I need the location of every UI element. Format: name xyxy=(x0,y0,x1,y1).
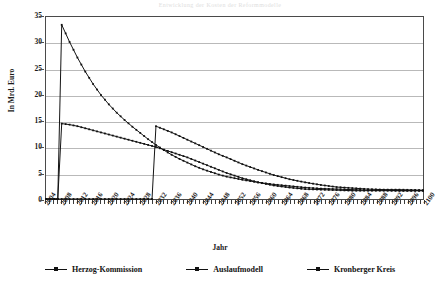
data-point xyxy=(159,147,161,149)
data-point xyxy=(257,181,259,183)
data-point xyxy=(344,187,346,189)
chart-container: Entwicklung der Kosten der Reformmodelle… xyxy=(0,0,440,285)
data-point xyxy=(147,144,149,146)
series-layer xyxy=(46,17,423,199)
y-tick-label: 35 xyxy=(2,12,42,20)
y-tick-label: 30 xyxy=(2,38,42,46)
legend-item-3[interactable]: Kronberger Kreis xyxy=(307,265,395,274)
data-point xyxy=(293,185,295,187)
data-point xyxy=(324,185,326,187)
data-point xyxy=(399,189,401,191)
legend-marker-icon xyxy=(307,265,329,274)
data-point xyxy=(359,188,361,190)
y-tick-label: 5 xyxy=(2,170,42,178)
data-point xyxy=(391,189,393,191)
data-point xyxy=(395,189,397,191)
data-point xyxy=(96,89,98,91)
data-point xyxy=(289,185,291,187)
data-point xyxy=(167,150,169,152)
data-point xyxy=(124,119,126,121)
data-point xyxy=(194,142,196,144)
data-point xyxy=(202,146,204,148)
data-point xyxy=(347,187,349,189)
data-point xyxy=(167,130,169,132)
data-point xyxy=(198,144,200,146)
data-point xyxy=(206,164,208,166)
y-tick-mark xyxy=(39,174,44,175)
data-point xyxy=(65,123,67,125)
data-point xyxy=(194,165,196,167)
data-point xyxy=(190,164,192,166)
data-point xyxy=(202,163,204,165)
data-point xyxy=(281,186,283,188)
data-point xyxy=(116,112,118,114)
data-point xyxy=(116,136,118,138)
data-point xyxy=(131,140,133,142)
data-point xyxy=(183,137,185,139)
data-point xyxy=(100,94,102,96)
data-point xyxy=(226,157,228,159)
data-point xyxy=(77,57,79,59)
data-point xyxy=(253,180,255,182)
data-point xyxy=(151,141,153,143)
data-point xyxy=(296,187,298,189)
data-point xyxy=(308,182,310,184)
data-point xyxy=(69,41,71,43)
data-point xyxy=(363,190,365,192)
data-point xyxy=(222,155,224,157)
data-point xyxy=(300,186,302,188)
data-point xyxy=(265,172,267,174)
y-axis-title: In Mrd. Euro xyxy=(7,54,16,128)
series-1 xyxy=(45,24,424,200)
data-point xyxy=(363,188,365,190)
data-point xyxy=(296,180,298,182)
data-point xyxy=(406,189,408,191)
data-point xyxy=(241,177,243,179)
data-point xyxy=(198,161,200,163)
data-point xyxy=(100,132,102,134)
data-point xyxy=(88,128,90,130)
data-point xyxy=(92,129,94,131)
data-point xyxy=(73,49,75,51)
x-axis-labels: 2004200820122016202020242028203220362040… xyxy=(0,203,440,239)
data-point xyxy=(218,174,220,176)
data-point xyxy=(336,186,338,188)
data-point xyxy=(320,184,322,186)
data-point xyxy=(234,175,236,177)
data-point xyxy=(273,174,275,176)
data-point xyxy=(245,178,247,180)
data-point xyxy=(230,158,232,160)
data-point xyxy=(175,156,177,158)
x-axis-title: Jahr xyxy=(0,243,440,252)
data-point xyxy=(269,173,271,175)
data-point xyxy=(218,169,220,171)
data-point xyxy=(69,124,71,126)
data-point xyxy=(230,173,232,175)
data-point xyxy=(186,139,188,141)
data-point xyxy=(159,127,161,129)
data-point xyxy=(147,138,149,140)
legend-item-1[interactable]: Herzog-Kommission xyxy=(45,265,142,274)
data-point xyxy=(324,189,326,191)
legend-label: Herzog-Kommission xyxy=(72,265,142,274)
data-point xyxy=(355,187,357,189)
data-point xyxy=(285,177,287,179)
data-point xyxy=(112,135,114,137)
data-point xyxy=(167,152,169,154)
data-point xyxy=(80,64,82,66)
data-point xyxy=(120,115,122,117)
series-line xyxy=(46,25,423,199)
data-point xyxy=(371,188,373,190)
data-point xyxy=(344,190,346,192)
data-point xyxy=(120,137,122,139)
data-point xyxy=(277,185,279,187)
data-point xyxy=(226,176,228,178)
data-point xyxy=(402,189,404,191)
data-point xyxy=(226,172,228,174)
data-point xyxy=(261,170,263,172)
legend-item-2[interactable]: Auslaufmodell xyxy=(186,265,263,274)
data-point xyxy=(198,167,200,169)
data-point xyxy=(351,187,353,189)
data-point xyxy=(190,141,192,143)
y-tick-mark xyxy=(39,95,44,96)
